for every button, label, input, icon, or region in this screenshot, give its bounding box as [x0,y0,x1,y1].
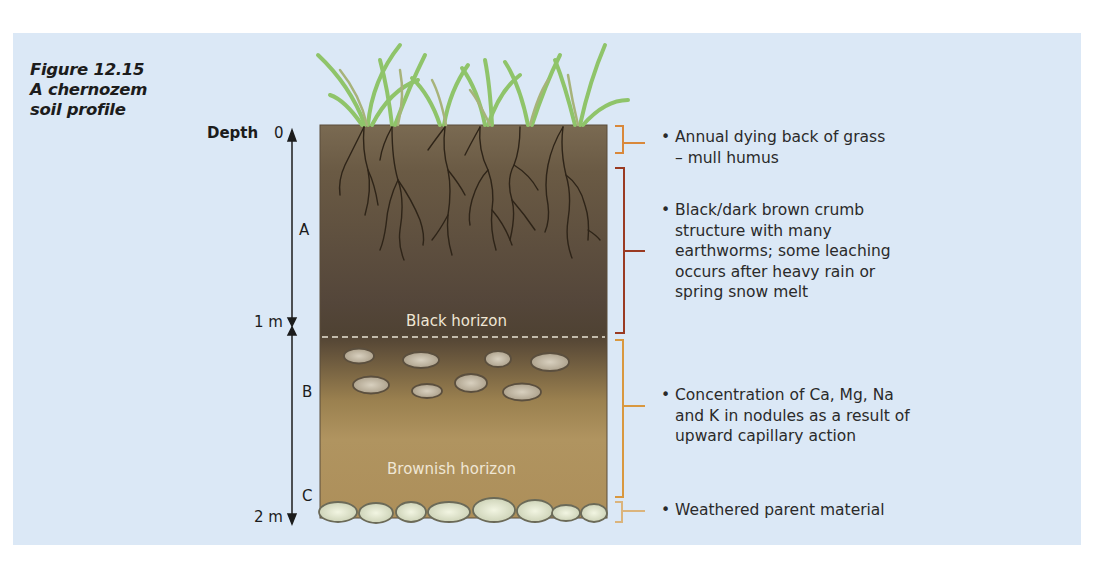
bracket-humus [615,126,645,153]
bracket-parent-material [615,502,645,522]
bullet-icon: • [661,200,670,221]
bullet-icon: • [661,500,670,521]
black-horizon-label: Black horizon [406,312,507,330]
soil-profile-drawing [0,0,1106,572]
brownish-horizon-label: Brownish horizon [387,460,516,478]
annotation-parent-material: • Weathered parent material [675,500,885,521]
grass-icon [318,45,628,125]
bullet-icon: • [661,127,670,148]
annotation-black-horizon: • Black/dark brown crumb structure with … [675,200,891,303]
annotation-humus: • Annual dying back of grass – mull humu… [675,127,885,168]
annotation-brownish-horizon: • Concentration of Ca, Mg, Na and K in n… [675,385,910,447]
depth-arrow [288,130,296,524]
bracket-black-horizon [615,168,645,333]
bullet-icon: • [661,385,670,406]
bracket-brownish-horizon [615,340,645,497]
